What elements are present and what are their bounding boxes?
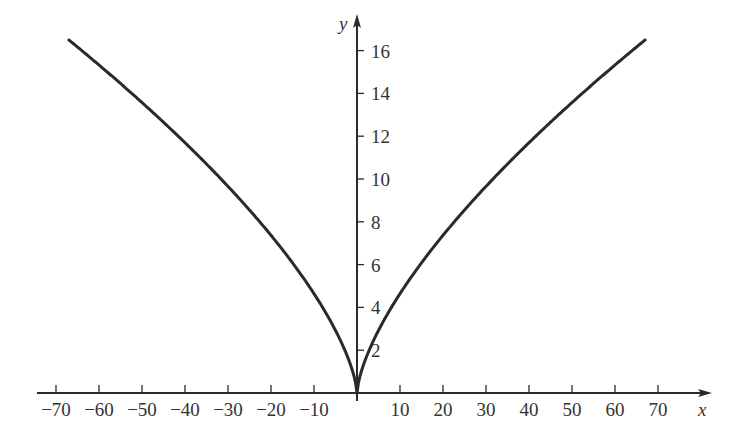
y-tick-label: 8 xyxy=(371,212,381,233)
x-axis-label: x xyxy=(697,399,707,420)
function-plot: −70−60−50−40−30−20−1010203040506070 2468… xyxy=(0,0,739,439)
x-axis-ticks: −70−60−50−40−30−20−1010203040506070 xyxy=(41,385,667,420)
x-tick-label: 60 xyxy=(606,399,625,420)
x-tick-label: −20 xyxy=(256,399,286,420)
x-tick-label: −30 xyxy=(213,399,243,420)
y-axis-ticks: 246810121416 xyxy=(357,41,391,362)
x-tick-label: −60 xyxy=(84,399,114,420)
y-tick-label: 12 xyxy=(371,126,390,147)
x-tick-label: 10 xyxy=(391,399,410,420)
x-tick-label: 50 xyxy=(563,399,582,420)
y-axis-label: y xyxy=(337,13,348,34)
y-tick-label: 4 xyxy=(371,297,381,318)
y-tick-label: 16 xyxy=(371,41,390,62)
y-tick-label: 10 xyxy=(371,169,390,190)
x-tick-label: 30 xyxy=(477,399,496,420)
x-tick-label: −10 xyxy=(299,399,329,420)
y-tick-label: 14 xyxy=(371,83,391,104)
y-tick-label: 6 xyxy=(371,255,381,276)
x-tick-label: −50 xyxy=(127,399,157,420)
x-tick-label: 20 xyxy=(434,399,453,420)
x-tick-label: −40 xyxy=(170,399,200,420)
x-tick-label: 70 xyxy=(649,399,668,420)
x-tick-label: 40 xyxy=(520,399,539,420)
x-tick-label: −70 xyxy=(41,399,71,420)
